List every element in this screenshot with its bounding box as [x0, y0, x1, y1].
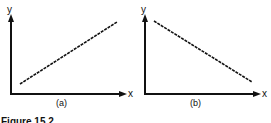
y-arrow-icon: [142, 14, 148, 22]
x-arrow-icon: [119, 91, 127, 97]
panel-a: y x (a): [7, 4, 133, 108]
panel-label-a: (a): [56, 98, 67, 108]
x-axis-label-b: x: [262, 88, 267, 99]
x-axis-label-a: x: [128, 88, 133, 99]
trend-line-negative: [154, 21, 252, 82]
panel-b: y x (b): [141, 4, 267, 108]
figure-canvas: y x (a) y x (b) Figure 15.2: [0, 0, 271, 123]
y-axis-label-b: y: [141, 4, 146, 15]
y-axis-label-a: y: [7, 4, 12, 15]
x-arrow-icon: [253, 91, 261, 97]
trend-line-positive: [20, 22, 117, 84]
figure-caption: Figure 15.2: [1, 116, 54, 123]
panel-label-b: (b): [190, 98, 201, 108]
y-arrow-icon: [8, 14, 14, 22]
